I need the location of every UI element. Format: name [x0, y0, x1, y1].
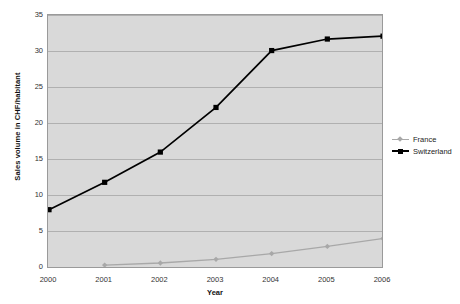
series-line-france: [105, 238, 382, 265]
data-point-france: [269, 251, 274, 256]
x-tick-label: 2003: [195, 275, 235, 284]
legend-label-france: France: [413, 135, 436, 144]
legend-marker-square-icon: [392, 147, 409, 156]
data-point-france: [158, 260, 163, 265]
legend-item-switzerland: Switzerland: [392, 145, 452, 157]
legend-marker-diamond-icon: [392, 135, 409, 144]
y-tick-label: 5: [3, 227, 43, 235]
y-axis-ticks: 05101520253035: [0, 14, 43, 268]
plot-area: [47, 14, 383, 268]
x-tick-label: 2002: [139, 275, 179, 284]
series-line-switzerland: [49, 36, 382, 210]
x-tick-label: 2001: [84, 275, 124, 284]
x-tick-label: 2006: [362, 275, 402, 284]
y-tick-label: 35: [3, 11, 43, 19]
x-tick-label: 2000: [28, 275, 68, 284]
data-point-france: [380, 236, 382, 241]
y-tick-label: 20: [3, 119, 43, 127]
data-point-france: [213, 257, 218, 262]
line-chart: Sales volume in CHF/habitant 05101520253…: [0, 0, 460, 304]
legend-label-switzerland: Switzerland: [413, 147, 452, 156]
plot-inner: [48, 15, 382, 267]
y-tick-label: 25: [3, 83, 43, 91]
data-point-switzerland: [325, 36, 330, 41]
y-tick-label: 0: [3, 263, 43, 271]
series-lines: [48, 15, 382, 267]
x-axis-ticks: 2000200120022003200420052006: [47, 275, 383, 289]
chart-legend: France Switzerland: [392, 133, 452, 157]
data-point-switzerland: [269, 48, 274, 53]
data-point-switzerland: [158, 149, 163, 154]
x-tick-label: 2004: [251, 275, 291, 284]
data-point-switzerland: [380, 34, 382, 39]
data-point-switzerland: [102, 180, 107, 185]
data-point-switzerland: [48, 207, 52, 212]
data-point-france: [325, 244, 330, 249]
x-tick-label: 2005: [306, 275, 346, 284]
y-tick-label: 10: [3, 191, 43, 199]
y-tick-label: 15: [3, 155, 43, 163]
y-tick-label: 30: [3, 47, 43, 55]
legend-item-france: France: [392, 133, 452, 145]
data-point-switzerland: [213, 105, 218, 110]
data-point-france: [102, 262, 107, 267]
x-axis-title: Year: [47, 288, 383, 297]
